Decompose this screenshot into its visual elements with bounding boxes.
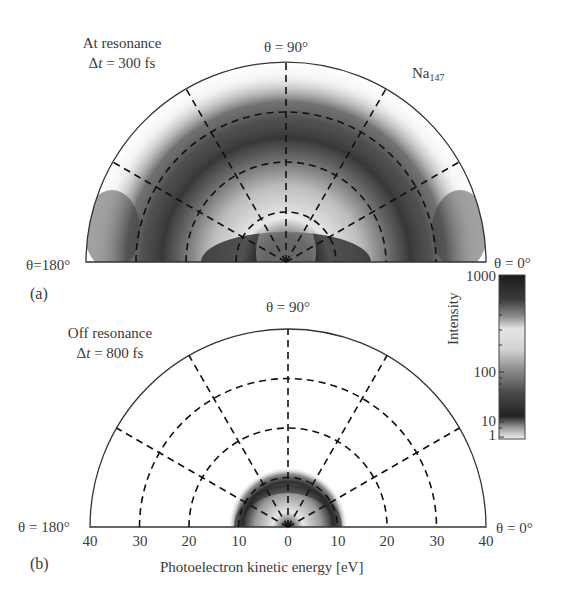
x-tick: 10 bbox=[227, 532, 251, 550]
panel-b-delay: Δt = 800 fs bbox=[50, 344, 170, 362]
x-tick: 10 bbox=[326, 532, 350, 550]
panel-b-title: Off resonance bbox=[50, 324, 170, 342]
panel-a-plot bbox=[84, 62, 488, 292]
x-tick: 0 bbox=[276, 532, 300, 550]
x-axis-label: Photoelectron kinetic energy [eV] bbox=[160, 558, 363, 576]
species-label: Na147 bbox=[412, 64, 445, 87]
delta-symbol: Δ bbox=[77, 345, 87, 361]
panel-b-theta-0: θ = 0° bbox=[496, 519, 533, 537]
panel-b-theta-180: θ = 180° bbox=[18, 518, 70, 536]
panel-a-delay: Δt = 300 fs bbox=[62, 54, 182, 72]
x-tick: 40 bbox=[78, 532, 102, 550]
delay-value: = 800 fs bbox=[90, 345, 143, 361]
x-tick: 40 bbox=[474, 532, 498, 550]
delay-value: = 300 fs bbox=[102, 55, 155, 71]
colorbar-label: Intensity bbox=[444, 265, 462, 345]
colorbar-tick-100: 100 bbox=[450, 363, 496, 381]
x-tick: 20 bbox=[177, 532, 201, 550]
panel-a-tag: (a) bbox=[30, 285, 48, 303]
panel-a-theta-0: θ = 0° bbox=[494, 254, 531, 272]
panel-b-tag: (b) bbox=[30, 555, 49, 573]
panel-a-title: At resonance bbox=[62, 34, 182, 52]
panel-b-theta-90: θ = 90° bbox=[248, 298, 328, 316]
panel-a-theta-180: θ=180° bbox=[26, 256, 70, 274]
colorbar-tick-1: 1 bbox=[450, 426, 496, 444]
species-base: Na bbox=[412, 65, 430, 81]
x-tick: 30 bbox=[425, 532, 449, 550]
delta-symbol: Δ bbox=[89, 55, 99, 71]
panel-a-theta-90: θ = 90° bbox=[246, 38, 326, 56]
species-subscript: 147 bbox=[430, 72, 445, 83]
x-tick: 20 bbox=[375, 532, 399, 550]
x-tick: 30 bbox=[128, 532, 152, 550]
colorbar bbox=[499, 275, 525, 439]
